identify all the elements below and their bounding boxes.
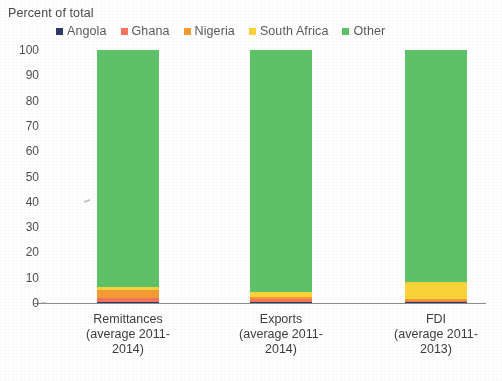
legend-item-label: Angola (67, 24, 107, 38)
bar-segment-angola[interactable] (250, 302, 312, 303)
legend-item-south-africa[interactable]: South Africa (249, 24, 329, 38)
y-axis-tick-label: 50 (26, 170, 39, 184)
bar-segment-south-africa[interactable] (405, 282, 467, 300)
x-axis-category-label: Exports (average 2011- 2014) (206, 312, 356, 357)
bar-segment-angola[interactable] (97, 302, 159, 303)
bar-segment-other[interactable] (97, 50, 159, 287)
y-axis-tick-mark (41, 303, 46, 304)
legend-item-label: Other (353, 24, 385, 38)
scan-artifact (84, 199, 90, 203)
bar-segment-angola[interactable] (405, 302, 467, 303)
y-axis-tick-label: 0 (32, 296, 39, 310)
legend-swatch-icon (184, 28, 191, 35)
legend-item-ghana[interactable]: Ghana (121, 24, 170, 38)
y-axis-tick-label: 80 (26, 94, 39, 108)
bar-remittances[interactable]: Remittances (average 2011- 2014) (97, 50, 159, 303)
bar-fdi[interactable]: FDI (average 2011- 2013) (405, 50, 467, 303)
bar-segment-other[interactable] (250, 50, 312, 292)
bar-exports[interactable]: Exports (average 2011- 2014) (250, 50, 312, 303)
legend-item-label: Ghana (132, 24, 170, 38)
chart-legend: AngolaGhanaNigeriaSouth AfricaOther (56, 24, 385, 38)
legend-swatch-icon (342, 28, 349, 35)
x-axis-category-label: FDI (average 2011- 2013) (361, 312, 502, 357)
y-axis-tick-label: 70 (26, 119, 39, 133)
y-axis-tick-label: 30 (26, 220, 39, 234)
plot-area: 1009080706050403020100Remittances (avera… (46, 50, 486, 303)
bar-segment-nigeria[interactable] (97, 290, 159, 298)
y-axis-tick-label: 90 (26, 68, 39, 82)
legend-item-label: Nigeria (195, 24, 235, 38)
y-axis-tick-label: 20 (26, 245, 39, 259)
legend-item-angola[interactable]: Angola (56, 24, 107, 38)
x-axis-category-label: Remittances (average 2011- 2014) (53, 312, 203, 357)
y-axis-tick-label: 100 (19, 43, 39, 57)
legend-swatch-icon (121, 28, 128, 35)
y-axis-tick-label: 40 (26, 195, 39, 209)
legend-swatch-icon (56, 28, 63, 35)
bar-segment-other[interactable] (405, 50, 467, 281)
x-axis-line (34, 303, 486, 304)
y-axis-tick-label: 60 (26, 144, 39, 158)
stacked-bar-chart: Percent of total AngolaGhanaNigeriaSouth… (0, 0, 502, 381)
y-axis-tick-label: 10 (26, 271, 39, 285)
legend-swatch-icon (249, 28, 256, 35)
legend-item-label: South Africa (260, 24, 329, 38)
legend-item-other[interactable]: Other (342, 24, 385, 38)
chart-title: Percent of total (8, 6, 94, 20)
legend-item-nigeria[interactable]: Nigeria (184, 24, 235, 38)
